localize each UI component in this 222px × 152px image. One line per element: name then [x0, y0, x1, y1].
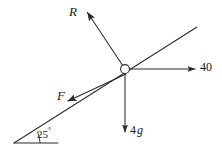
friction-vector: [68, 74, 126, 101]
incline-surface-line: [14, 27, 197, 143]
normal-reaction-vector: [88, 13, 126, 70]
weight-force-label: 4g: [130, 124, 143, 136]
gravity-symbol: g: [136, 123, 143, 137]
applied-force-label: 40: [200, 61, 212, 73]
reaction-force-label: R: [69, 5, 77, 18]
particle-node: [121, 65, 130, 74]
incline-angle-value: 25: [37, 128, 48, 140]
degree-symbol: °: [48, 126, 51, 135]
friction-force-label: F: [57, 89, 65, 102]
diagram-canvas: [0, 0, 222, 152]
force-diagram: R F 40 4g 25°: [0, 0, 222, 152]
incline-angle-label: 25°: [37, 127, 51, 140]
